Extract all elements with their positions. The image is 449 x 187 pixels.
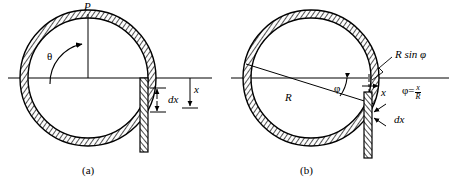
- x-label-a: x: [194, 84, 199, 95]
- element-strip-a: [140, 78, 148, 152]
- dx-label-a: dx: [168, 94, 178, 105]
- phi-equation-numerator: x: [415, 84, 422, 92]
- x-label-b: x: [381, 87, 386, 98]
- caption-b: (b): [300, 164, 313, 176]
- panel-a: [8, 8, 212, 152]
- r-sin-phi-label-b: R sin φ: [395, 49, 426, 60]
- figure-ring-cross-section: P θ x dx (a) R φ R sin φ x dx φ=xR (b): [0, 0, 449, 187]
- element-strip-b: [364, 92, 372, 158]
- phi-equation-denominator: R: [415, 92, 422, 101]
- load-label-a: P: [84, 1, 91, 12]
- phi-equation-fraction: xR: [415, 84, 422, 101]
- phi-equation-b: φ=xR: [402, 84, 421, 101]
- radius-label-b: R: [285, 92, 292, 103]
- dx-label-b: dx: [394, 114, 404, 125]
- theta-label-a: θ: [47, 51, 52, 62]
- phi-label-b: φ: [334, 83, 340, 94]
- caption-a: (a): [82, 164, 94, 176]
- dx-dimension-b: [374, 104, 386, 126]
- radius-line-b: [246, 64, 374, 104]
